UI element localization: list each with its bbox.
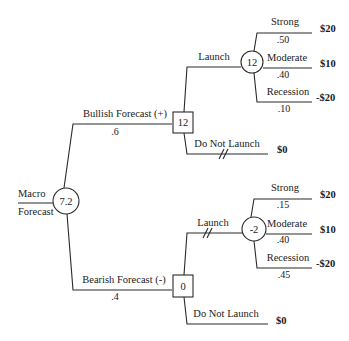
bearish-strong-payoff: $20 [320,189,336,200]
bearish-launch-label: Launch [197,217,229,228]
bullish-moderate-label: Moderate [267,52,308,63]
bullish-recession-payoff: -$20 [316,92,335,103]
bullish-probability: .6 [111,126,119,137]
bullish-no-launch-payoff: $0 [277,144,288,155]
root-value: 7.2 [59,196,72,207]
root-label-top: Macro [18,188,45,199]
bullish-strong-prob: .50 [277,34,290,45]
bearish-probability: .4 [111,291,119,302]
bullish-launch-line [184,67,241,112]
decision-value-bearish: 0 [180,281,185,292]
bullish-label: Bullish Forecast (+) [83,108,168,120]
bullish-strong-label: Strong [271,16,300,27]
chance-value-bearish-launch: -2 [250,224,259,235]
branch-bearish: Bearish Forecast (-) .4 0 Launch -2 Stro… [67,182,336,326]
bearish-recession-label: Recession [267,252,310,263]
root-label-bottom: Forecast [18,206,54,217]
chance-value-bullish-launch: 12 [247,57,258,68]
decision-tree: Macro Forecast 7.2 Bullish Forecast (+) … [0,0,349,341]
bullish-moderate-payoff: $10 [320,58,336,69]
bullish-launch-label: Launch [198,51,230,62]
root-node: Macro Forecast 7.2 [18,188,79,217]
bullish-recession-label: Recession [267,86,310,97]
bearish-recession-payoff: -$20 [316,258,335,269]
bullish-strong-payoff: $20 [320,23,336,34]
bearish-moderate-payoff: $10 [320,224,336,235]
bearish-recession-prob: .45 [278,269,291,280]
branch-bullish: Bullish Forecast (+) .6 12 Launch 12 Str… [64,16,336,188]
bearish-moderate-prob: .40 [277,234,290,245]
decision-value-bullish: 12 [178,117,189,128]
bullish-recession-prob: .10 [278,103,291,114]
bearish-strong-prob: .15 [277,199,290,210]
bearish-moderate-label: Moderate [267,218,308,229]
bearish-label: Bearish Forecast (-) [82,274,166,286]
bearish-strong-label: Strong [271,182,300,193]
bearish-no-launch-payoff: $0 [276,315,287,326]
bearish-launch-line [184,233,243,275]
bearish-no-launch-label: Do Not Launch [193,308,259,319]
bullish-no-launch-label: Do Not Launch [194,138,260,149]
bullish-moderate-prob: .40 [277,69,290,80]
